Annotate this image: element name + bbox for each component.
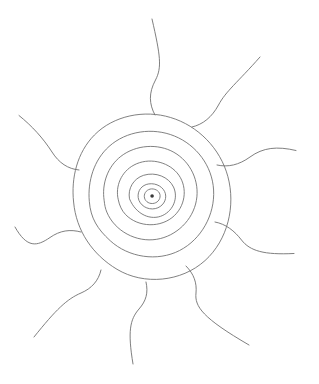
drawing-canvas [0, 0, 319, 384]
center-dot [150, 194, 154, 198]
sun-drawing [0, 0, 319, 384]
